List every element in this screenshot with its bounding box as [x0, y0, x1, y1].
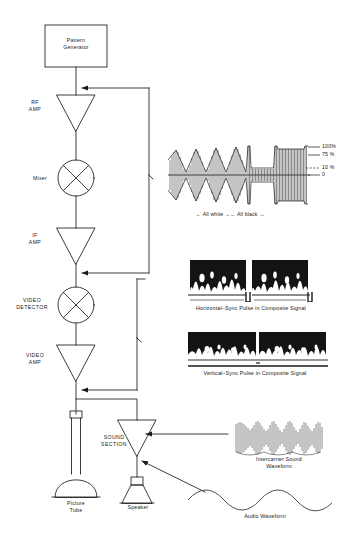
link-video-to-sound	[76, 399, 137, 420]
if-amp-symbol	[57, 228, 95, 264]
figure-canvas: Pattern Generator RF AMP Mixer IF AMP VI…	[0, 0, 353, 545]
sound-section-label: SOUND SECTION	[93, 434, 135, 447]
rf-region-labels: ← All white →← All black →	[196, 211, 264, 217]
speaker-cone	[122, 485, 152, 503]
audio-waveform	[188, 490, 332, 511]
video-amp-label: VIDEO AMP	[17, 352, 53, 365]
horizontal-sync-photo	[186, 258, 314, 302]
picture-tube-label: Picture Tube	[51, 500, 101, 513]
scale-label-100: 100%	[322, 143, 336, 149]
video-detector-cross	[63, 292, 88, 317]
intercarrier-sound-waveform	[236, 421, 322, 455]
mixer-cross	[63, 165, 88, 190]
pattern-generator-label: Pattern Generator	[48, 37, 104, 50]
vertical-sync-photo	[186, 330, 330, 370]
bus-tick-a	[149, 175, 153, 179]
crt-bell	[55, 480, 97, 497]
mixer-label: Mixer	[24, 175, 56, 182]
rf-amp-label: RF AMP	[19, 99, 51, 112]
speaker-magnet	[131, 477, 143, 485]
intercarrier-caption: Intercarrier Sound Waveform	[234, 456, 324, 470]
scale-label-10: 10 %	[322, 164, 335, 170]
rf-waveform-plot	[168, 146, 312, 204]
scale-label-75: 75 %	[322, 151, 335, 157]
rf-amp-symbol	[57, 95, 95, 131]
video-detector-label: VIDEO DETECTOR	[8, 297, 56, 310]
video-amp-symbol	[57, 345, 95, 381]
audio-waveform-caption: Audio Waveform	[222, 513, 308, 520]
speaker-label: Speaker	[118, 504, 158, 511]
bus-tick-b	[137, 338, 141, 342]
vertical-sync-caption: Vertical–Sync Pulse in Composite Signal	[182, 370, 328, 377]
crt-neck	[72, 418, 81, 474]
pointer-audio-to-speaker	[142, 461, 205, 492]
scale-label-0: 0	[322, 171, 325, 177]
rf-scale-ticks	[306, 147, 320, 175]
horizontal-sync-caption: Horizontal–Sync Pulse in Composite Signa…	[180, 305, 322, 312]
if-amp-label: IF AMP	[19, 232, 51, 245]
audio-sine-path	[188, 490, 332, 511]
